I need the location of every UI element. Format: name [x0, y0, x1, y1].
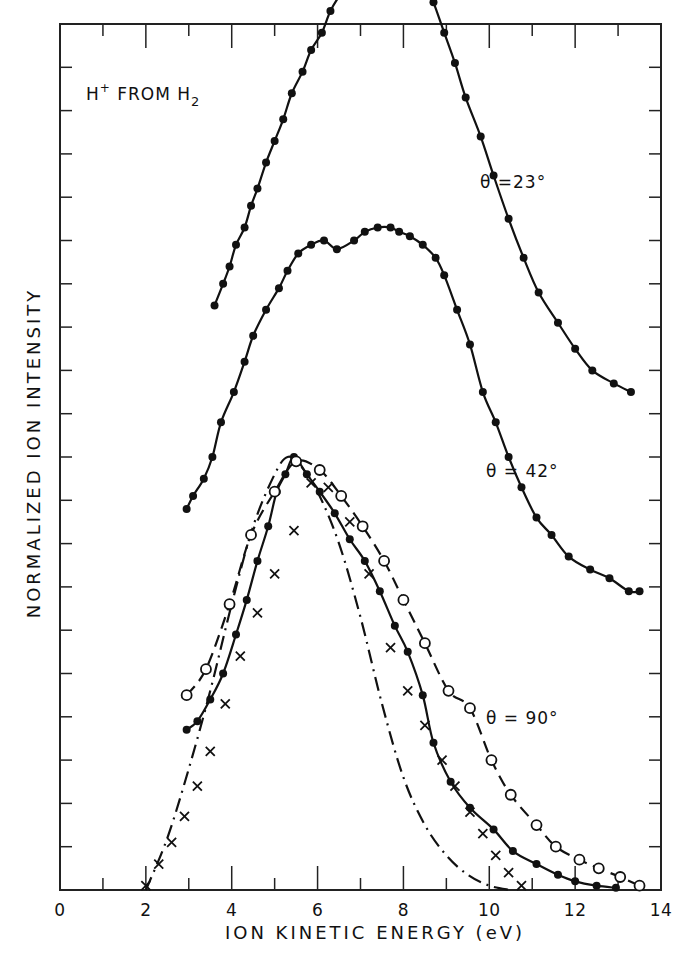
filled-circle-marker — [288, 89, 296, 97]
filled-circle-marker — [554, 319, 562, 327]
filled-circle-marker — [605, 574, 613, 582]
open-circle-marker — [270, 487, 280, 497]
filled-circle-marker — [316, 488, 324, 496]
x-tick-label: 14 — [650, 900, 673, 920]
filled-circle-marker — [376, 587, 384, 595]
cross-marker — [517, 881, 526, 890]
filled-circle-marker — [565, 553, 573, 561]
open-circle-marker — [635, 881, 645, 891]
filled-circle-marker — [249, 332, 257, 340]
filled-circle-marker — [391, 622, 399, 630]
open-circle-marker — [379, 556, 389, 566]
cross-marker — [403, 686, 412, 695]
chart: 02468101214 ION KINETIC ENERGY (eV) NORM… — [0, 0, 690, 954]
x-tick-labels: 02468101214 — [54, 900, 672, 920]
filled-circle-marker — [303, 470, 311, 478]
filled-circle-marker — [331, 509, 339, 517]
y-axis-title: NORMALIZED ION INTENSITY — [23, 288, 44, 619]
filled-circle-marker — [232, 241, 240, 249]
filled-circle-marker — [241, 224, 249, 232]
filled-circle-marker — [241, 358, 249, 366]
filled-circle-marker — [294, 249, 302, 257]
filled-circle-marker — [588, 366, 596, 374]
filled-circle-marker — [264, 522, 272, 530]
filled-circle-marker — [247, 202, 255, 210]
filled-circle-marker — [490, 825, 498, 833]
cross-marker — [193, 782, 202, 791]
filled-circle-marker — [520, 254, 528, 262]
open-circle-marker — [574, 855, 584, 865]
cross-marker — [504, 868, 513, 877]
filled-circle-marker — [326, 7, 334, 15]
filled-circle-marker — [395, 228, 403, 236]
filled-circle-marker — [183, 505, 191, 513]
filled-circle-marker — [517, 483, 525, 491]
filled-circle-marker — [625, 587, 633, 595]
x-tick-label: 10 — [478, 900, 501, 920]
filled-circle-marker — [477, 133, 485, 141]
filled-circle-marker — [429, 0, 437, 6]
annotation-h: H — [86, 84, 100, 104]
filled-circle-marker — [533, 514, 541, 522]
plot-annotation-title: H+ FROM H2 — [86, 81, 200, 109]
filled-circle-marker — [271, 137, 279, 145]
filled-circle-marker — [492, 418, 500, 426]
x-tick-label: 6 — [312, 900, 323, 920]
axis-ticks — [60, 24, 661, 890]
open-circle-marker — [358, 521, 368, 531]
open-circle-marker — [182, 690, 192, 700]
open-circle-marker — [336, 491, 346, 501]
filled-circle-marker — [361, 228, 369, 236]
open-circle-marker — [246, 530, 256, 540]
x-tick-label: 2 — [140, 900, 151, 920]
filled-circle-marker — [243, 596, 251, 604]
open-circle-marker — [291, 456, 301, 466]
cross-marker — [270, 569, 279, 578]
open-circle-marker — [615, 872, 625, 882]
filled-circle-marker — [219, 280, 227, 288]
open-circle-marker — [532, 820, 542, 830]
open-circle-marker — [594, 863, 604, 873]
filled-circle-marker — [320, 237, 328, 245]
curve-label-23: θ =23° — [480, 172, 546, 192]
open-circle-marker — [506, 790, 516, 800]
filled-circle-marker — [466, 340, 474, 348]
series-line — [187, 457, 616, 888]
filled-circle-marker — [217, 418, 225, 426]
filled-circle-marker — [548, 531, 556, 539]
cross-marker — [324, 483, 333, 492]
filled-circle-marker — [226, 262, 234, 270]
filled-circle-marker — [535, 288, 543, 296]
x-tick-label: 12 — [564, 900, 587, 920]
filled-circle-marker — [350, 237, 358, 245]
cross-marker — [289, 526, 298, 535]
filled-circle-marker — [361, 557, 369, 565]
filled-circle-marker — [307, 241, 315, 249]
filled-circle-marker — [253, 557, 261, 565]
filled-circle-marker — [404, 648, 412, 656]
filled-circle-marker — [284, 267, 292, 275]
open-circle-marker — [551, 842, 561, 852]
curve-label-42: θ = 42° — [486, 461, 559, 481]
filled-circle-marker — [279, 115, 287, 123]
open-circle-marker — [465, 703, 475, 713]
filled-circle-marker — [479, 388, 487, 396]
data-markers — [141, 0, 644, 892]
filled-circle-marker — [462, 94, 470, 102]
filled-circle-marker — [346, 535, 354, 543]
filled-circle-marker — [451, 59, 459, 67]
filled-circle-marker — [432, 254, 440, 262]
filled-circle-marker — [307, 46, 315, 54]
filled-circle-marker — [183, 726, 191, 734]
cross-marker — [420, 721, 429, 730]
filled-circle-marker — [219, 670, 227, 678]
filled-circle-marker — [419, 691, 427, 699]
filled-circle-marker — [333, 245, 341, 253]
cross-marker — [236, 652, 245, 661]
filled-circle-marker — [453, 306, 461, 314]
filled-circle-marker — [554, 871, 562, 879]
open-circle-marker — [420, 638, 430, 648]
filled-circle-marker — [211, 301, 219, 309]
cross-marker — [221, 699, 230, 708]
filled-circle-marker — [586, 566, 594, 574]
